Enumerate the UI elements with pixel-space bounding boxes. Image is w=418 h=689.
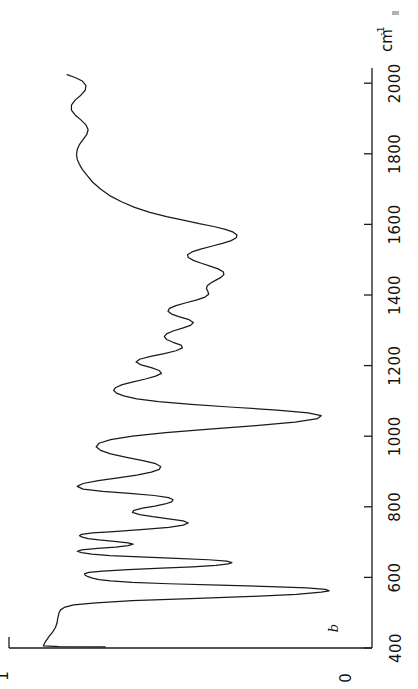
wavenumber-unit-label: cm -1 (375, 27, 396, 52)
wavenumber-tick-label: 1800 (387, 134, 405, 174)
spectrum-canvas: 400600800100012001400160018002000 1 0 cm… (0, 0, 418, 689)
wavenumber-tick-label: 1400 (387, 275, 405, 315)
wavenumber-tick-marks (364, 83, 372, 648)
wavenumber-tick-label: 400 (387, 633, 405, 663)
wavenumber-tick-label: 600 (387, 562, 405, 592)
spectrum-trace (43, 75, 329, 647)
curve-label-b: b (326, 624, 341, 632)
wavenumber-axis: 400600800100012001400160018002000 (364, 63, 405, 663)
transmittance-label-0: 0 (337, 673, 355, 683)
wavenumber-tick-labels: 400600800100012001400160018002000 (387, 63, 405, 663)
wavenumber-tick-label: 800 (387, 492, 405, 522)
unit-exponent: -1 (375, 27, 386, 36)
wavenumber-tick-label: 1600 (387, 204, 405, 244)
corner-registration-mark (392, 11, 399, 15)
transmittance-label-1: 1 (0, 671, 12, 681)
wavenumber-tick-label: 1200 (387, 345, 405, 385)
wavenumber-tick-label: 2000 (387, 63, 405, 103)
ir-spectrum-figure: 400600800100012001400160018002000 1 0 cm… (0, 0, 418, 689)
wavenumber-tick-label: 1000 (387, 416, 405, 456)
